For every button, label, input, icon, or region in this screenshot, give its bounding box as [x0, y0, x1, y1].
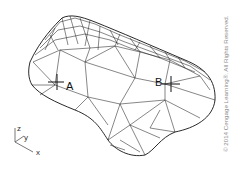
point-a-label: A [66, 80, 74, 92]
wireframe-figure: A B z y x [0, 0, 241, 171]
point-b-label: B [155, 76, 162, 88]
surface-mesh [32, 16, 215, 155]
axis-label-x: x [36, 148, 40, 157]
point-b-marker [162, 76, 180, 92]
copyright-notice: © 2014 Cengage Learning®. All Rights Res… [222, 16, 229, 152]
axis-label-z: z [17, 124, 21, 133]
axis-label-y: y [24, 133, 28, 142]
